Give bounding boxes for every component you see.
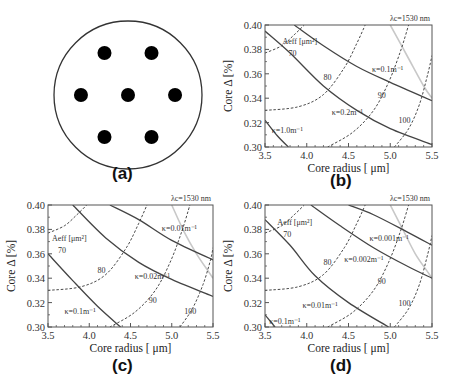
panel-label-b: (b) <box>330 171 352 191</box>
aeff-curve-label: 90 <box>149 296 157 305</box>
aeff-curve-label: 70 <box>288 49 296 58</box>
core-dot <box>97 130 111 144</box>
x-tick-label: 4.5 <box>124 330 137 341</box>
x-tick-label: 5.0 <box>165 330 178 341</box>
core-dot <box>74 88 88 102</box>
x-tick-label: 5.0 <box>384 150 397 161</box>
y-tick-label: 0.30 <box>244 142 262 153</box>
y-axis-label: Core Δ [%] <box>222 60 234 112</box>
y-tick-label: 0.40 <box>244 20 262 31</box>
fiber-cross-section <box>54 21 202 169</box>
chart-panel-d: 3.54.04.55.05.50.300.320.340.360.380.40C… <box>222 194 439 355</box>
core-dot <box>97 46 111 60</box>
y-tick-label: 0.32 <box>27 298 45 309</box>
y-tick-label: 0.32 <box>244 298 262 309</box>
y-tick-label: 0.34 <box>27 273 46 284</box>
kappa-curve-label: κ=1.0m⁻¹ <box>272 126 304 135</box>
chart-panel-c: 3.54.04.55.05.50.300.320.340.360.380.40C… <box>5 194 220 355</box>
aeff-title: Aeff [μm²] <box>52 234 87 243</box>
x-tick-label: 4.0 <box>300 330 313 341</box>
cutoff-label: λc=1530 nm <box>390 194 431 203</box>
aeff-curve <box>48 205 87 233</box>
x-tick-label: 4.5 <box>342 150 355 161</box>
panel-label-a: (a) <box>112 164 133 184</box>
core-dot <box>121 88 135 102</box>
y-tick-label: 0.36 <box>244 69 262 80</box>
x-tick-label: 5.0 <box>384 330 397 341</box>
aeff-curve-label: 90 <box>378 277 386 286</box>
x-axis-label: Core radius [ μm] <box>308 342 390 355</box>
panel-label-c: (c) <box>112 356 133 376</box>
panel-label-d: (d) <box>330 356 352 376</box>
kappa-curve-label: κ=0.01m⁻¹ <box>303 301 339 310</box>
aeff-curve-label: 100 <box>399 299 411 308</box>
figure-canvas: 3.54.04.55.05.50.300.320.340.360.380.40C… <box>0 0 450 383</box>
aeff-curve-label: 100 <box>184 307 196 316</box>
y-tick-label: 0.34 <box>244 273 263 284</box>
kappa-curve-label: κ=0.1m⁻¹ <box>269 317 301 326</box>
chart-panel-b: 3.54.04.55.05.50.300.320.340.360.380.40C… <box>222 14 439 175</box>
y-tick-label: 0.38 <box>244 224 262 235</box>
kappa-curve-label: κ=0.02m⁻¹ <box>135 272 171 281</box>
core-dot <box>145 130 159 144</box>
y-tick-label: 0.32 <box>244 118 262 129</box>
kappa-curve-label: κ=0.001m⁻¹ <box>369 234 409 243</box>
y-tick-label: 0.38 <box>27 224 45 235</box>
core-dot <box>168 88 182 102</box>
aeff-title: Aeff [μm²] <box>282 37 317 46</box>
kappa-curve-label: κ=0.1m⁻¹ <box>372 65 404 74</box>
y-tick-label: 0.36 <box>27 249 45 260</box>
y-tick-label: 0.34 <box>244 93 263 104</box>
x-tick-label: 5.5 <box>425 150 438 161</box>
aeff-curve-label: 80 <box>323 258 331 267</box>
x-axis-label: Core radius [ μm] <box>90 342 172 355</box>
y-tick-label: 0.40 <box>27 200 45 211</box>
kappa-curve-label: κ=0.002m⁻¹ <box>344 255 384 264</box>
aeff-curve-label: 100 <box>399 116 411 125</box>
y-tick-label: 0.38 <box>244 44 262 55</box>
aeff-curve <box>328 25 409 147</box>
aeff-curve <box>328 205 409 327</box>
y-tick-label: 0.40 <box>244 200 262 211</box>
y-axis-label: Core Δ [%] <box>5 240 17 292</box>
x-tick-label: 4.5 <box>342 330 355 341</box>
cutoff-label: λc=1530 nm <box>171 194 212 203</box>
core-dot <box>145 46 159 60</box>
y-tick-label: 0.30 <box>27 322 45 333</box>
x-tick-label: 4.0 <box>83 330 96 341</box>
aeff-curve-label: 70 <box>283 230 291 239</box>
aeff-curve-label: 90 <box>378 91 386 100</box>
y-tick-label: 0.36 <box>244 249 262 260</box>
kappa-curve-label: κ=0.01m⁻¹ <box>162 224 198 233</box>
x-tick-label: 5.5 <box>425 330 438 341</box>
kappa-curve-label: κ=0.1m⁻¹ <box>65 307 97 316</box>
aeff-curve-label: 80 <box>98 266 106 275</box>
x-tick-label: 4.0 <box>300 150 313 161</box>
y-axis-label: Core Δ [%] <box>222 240 234 292</box>
y-tick-label: 0.30 <box>244 322 262 333</box>
aeff-curve-label: 80 <box>323 73 331 82</box>
aeff-curve-label: 70 <box>58 246 66 255</box>
x-tick-label: 5.5 <box>206 330 219 341</box>
cutoff-label: λc=1530 nm <box>390 14 431 23</box>
aeff-title: Aeff [μm²] <box>277 218 312 227</box>
kappa-curve-label: κ=0.2m⁻¹ <box>332 108 364 117</box>
